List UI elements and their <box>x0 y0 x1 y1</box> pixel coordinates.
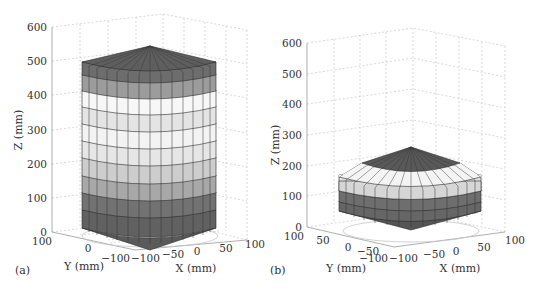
y-tick: 50 <box>316 234 329 246</box>
z-tick: 400 <box>27 89 47 101</box>
z-tick: 300 <box>27 124 47 136</box>
panel-b-z-ticks: 0 100 200 300 400 500 600 <box>282 37 302 233</box>
panel-b-x-label: X (mm) <box>440 262 481 275</box>
panel-b-label: (b) <box>270 264 286 277</box>
x-tick: 100 <box>245 238 265 250</box>
panel-a-y-label: Y (mm) <box>63 260 104 273</box>
x-tick: −100 <box>389 252 418 264</box>
x-tick: 0 <box>453 245 460 257</box>
x-tick: −50 <box>162 248 184 260</box>
x-tick: 0 <box>194 245 201 257</box>
z-tick: 500 <box>282 68 302 80</box>
y-tick: −100 <box>101 252 130 264</box>
x-tick: 100 <box>505 234 525 246</box>
panel-a-z-label: Z (mm) <box>12 110 25 151</box>
y-tick: 0 <box>85 242 92 254</box>
z-tick: 100 <box>282 190 302 202</box>
z-tick: 400 <box>282 98 302 110</box>
z-tick: 600 <box>282 37 302 49</box>
z-tick: 100 <box>27 192 47 204</box>
z-tick: 300 <box>282 129 302 141</box>
x-tick: 50 <box>477 241 490 253</box>
panel-b-z-label: Z (mm) <box>269 125 282 166</box>
panel-a-cylinder <box>82 46 216 250</box>
y-tick: 0 <box>345 241 352 253</box>
panel-a: 0 100 200 300 400 500 600 Z (mm) 100 0 −… <box>12 14 265 277</box>
x-tick: 50 <box>219 242 232 254</box>
figure-canvas: 0 100 200 300 400 500 600 Z (mm) 100 0 −… <box>0 0 536 292</box>
z-tick: 600 <box>27 21 47 33</box>
panel-a-x-label: X (mm) <box>176 262 217 275</box>
panel-a-label: (a) <box>15 264 30 277</box>
y-tick: 100 <box>32 235 52 247</box>
panel-b-y-label: Y (mm) <box>325 262 366 275</box>
panel-a-z-ticks: 0 100 200 300 400 500 600 <box>27 21 47 238</box>
x-tick: −50 <box>423 248 445 260</box>
panel-b-y-ticks: 100 50 0 −50 −100 <box>284 230 388 264</box>
x-tick: −100 <box>131 252 160 264</box>
y-tick: 100 <box>284 230 304 242</box>
z-tick: 200 <box>282 160 302 172</box>
z-tick: 200 <box>27 158 47 170</box>
z-tick: 500 <box>27 55 47 67</box>
panel-b: 0 100 200 300 400 500 600 Z (mm) 100 50 … <box>269 28 525 277</box>
